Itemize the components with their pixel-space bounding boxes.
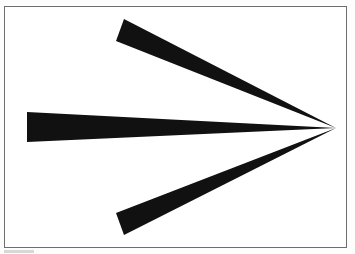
shaft-wedge: [27, 112, 336, 142]
lower-barb-wedge: [116, 128, 336, 235]
upper-barb-wedge: [116, 19, 336, 128]
caption-artifact: [4, 250, 34, 253]
figure-canvas: [0, 0, 355, 254]
converging-arrow-icon: [0, 0, 355, 254]
